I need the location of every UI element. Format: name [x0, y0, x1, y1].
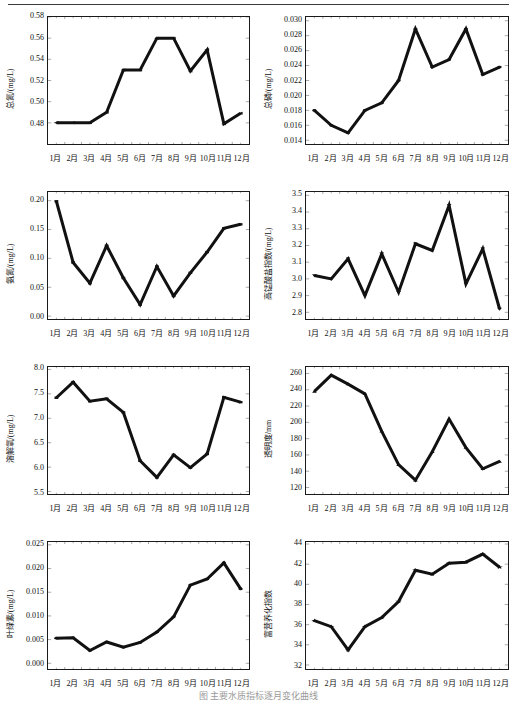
x-tick-label: 11月: [217, 505, 233, 513]
axes-frame-1: [305, 16, 509, 145]
y-tick-label: 3.3: [292, 224, 302, 232]
x-tick-label: 1月: [307, 505, 319, 513]
x-tick-label: 2月: [325, 680, 337, 688]
x-tick-label: 7月: [151, 680, 163, 688]
x-tick-label: 8月: [427, 155, 439, 163]
x-tick-label: 3月: [342, 155, 354, 163]
x-tick-label: 10月: [200, 505, 216, 513]
x-tick-label: 4月: [100, 505, 112, 513]
data-series-7: [306, 542, 508, 669]
x-tick-label: 8月: [168, 155, 180, 163]
chart-panel-chlorophyll: 叶绿素/(mg/L) 0.0000.0050.0100.0150.0200.02…: [0, 535, 258, 703]
x-tick-label: 11月: [476, 680, 492, 688]
x-tick-label: 1月: [307, 330, 319, 338]
x-tick-label: 7月: [151, 330, 163, 338]
data-series-0: [48, 17, 249, 144]
x-tick-group-6: 1月2月3月4月5月6月7月8月9月10月11月12月: [47, 674, 250, 690]
y-tick-label: 7.5: [34, 389, 44, 397]
y-tick-label: 0.030: [284, 16, 302, 24]
data-series-2: [48, 192, 249, 319]
axes-frame-5: [305, 366, 509, 495]
x-tick-label: 12月: [493, 505, 509, 513]
x-tick-label: 2月: [66, 505, 78, 513]
y-axis-label-1: 总磷/(mg/L): [262, 10, 276, 167]
x-tick-label: 5月: [117, 155, 129, 163]
y-tick-label: 34: [294, 641, 302, 649]
x-tick-label: 3月: [83, 155, 95, 163]
y-tick-label: 0.010: [26, 612, 44, 620]
header-rule: [8, 4, 509, 5]
y-tick-label: 0.014: [284, 137, 302, 145]
x-tick-label: 8月: [168, 505, 180, 513]
y-tick-label: 0.15: [30, 225, 44, 233]
y-tick-label: 240: [290, 385, 302, 393]
chart-panel-ammonia-nitrogen: 氨氮/(mg/L) 0.000.050.100.150.20 1月2月3月4月5…: [0, 185, 258, 360]
y-axis-label-6: 叶绿素/(mg/L): [4, 535, 18, 692]
chart-panel-total-phosphorus: 总磷/(mg/L) 0.0140.0160.0180.0200.0220.024…: [258, 10, 517, 185]
x-tick-label: 1月: [307, 680, 319, 688]
y-tick-label: 8.0: [34, 364, 44, 372]
y-axis-label-5: 透明度/mm: [262, 360, 276, 517]
y-axis-label-2: 氨氮/(mg/L): [4, 185, 18, 342]
x-tick-label: 7月: [410, 155, 422, 163]
y-tick-label: 140: [290, 468, 302, 476]
x-tick-label: 4月: [359, 155, 371, 163]
x-tick-label: 4月: [100, 680, 112, 688]
y-tick-group-1: 0.0140.0160.0180.0200.0220.0240.0260.028…: [276, 16, 304, 145]
y-tick-label: 0.50: [30, 98, 44, 106]
y-tick-label: 0.05: [30, 284, 44, 292]
y-tick-label: 7.0: [34, 414, 44, 422]
y-tick-label: 0.20: [30, 196, 44, 204]
plot-area-0: 0.480.500.520.540.560.58 1月2月3月4月5月6月7月8…: [18, 16, 252, 169]
y-tick-group-3: 2.82.93.03.13.23.33.43.5: [276, 191, 304, 320]
chart-cell-6: 叶绿素/(mg/L) 0.0000.0050.0100.0150.0200.02…: [0, 535, 258, 703]
x-tick-label: 11月: [217, 330, 233, 338]
x-tick-label: 4月: [359, 505, 371, 513]
y-tick-label: 0.005: [26, 636, 44, 644]
y-tick-label: 3.2: [292, 241, 302, 249]
x-tick-label: 12月: [234, 155, 250, 163]
y-tick-label: 0.020: [284, 92, 302, 100]
y-tick-label: 6.5: [34, 439, 44, 447]
y-tick-group-7: 32343638404244: [276, 541, 304, 670]
x-tick-label: 5月: [376, 505, 388, 513]
x-tick-label: 1月: [49, 505, 61, 513]
x-tick-label: 2月: [325, 505, 337, 513]
plot-area-5: 120140160180200220240260 1月2月3月4月5月6月7月8…: [276, 366, 511, 519]
y-tick-label: 200: [290, 418, 302, 426]
x-tick-label: 11月: [217, 155, 233, 163]
x-tick-label: 3月: [83, 330, 95, 338]
y-tick-label: 5.5: [34, 489, 44, 497]
x-tick-label: 1月: [307, 155, 319, 163]
axes-frame-2: [47, 191, 250, 320]
y-tick-label: 220: [290, 402, 302, 410]
x-tick-label: 3月: [342, 680, 354, 688]
x-tick-label: 10月: [458, 155, 474, 163]
x-tick-label: 5月: [117, 330, 129, 338]
x-tick-group-5: 1月2月3月4月5月6月7月8月9月10月11月12月: [305, 499, 509, 515]
x-tick-label: 6月: [393, 155, 405, 163]
y-tick-label: 3.0: [292, 275, 302, 283]
x-tick-label: 5月: [117, 505, 129, 513]
x-tick-label: 9月: [444, 155, 456, 163]
x-tick-group-4: 1月2月3月4月5月6月7月8月9月10月11月12月: [47, 499, 250, 515]
y-tick-label: 2.9: [292, 292, 302, 300]
x-tick-label: 2月: [325, 155, 337, 163]
x-tick-label: 6月: [134, 330, 146, 338]
data-series-1: [306, 17, 508, 144]
x-tick-label: 12月: [234, 330, 250, 338]
x-tick-label: 12月: [234, 505, 250, 513]
x-tick-group-1: 1月2月3月4月5月6月7月8月9月10月11月12月: [305, 149, 509, 165]
x-tick-label: 5月: [376, 155, 388, 163]
x-tick-label: 12月: [234, 680, 250, 688]
x-tick-label: 7月: [410, 680, 422, 688]
data-series-6: [48, 542, 249, 669]
y-tick-label: 0.48: [30, 120, 44, 128]
x-tick-label: 8月: [427, 505, 439, 513]
y-tick-label: 0.52: [30, 77, 44, 85]
x-tick-label: 10月: [458, 680, 474, 688]
y-tick-label: 0.018: [284, 107, 302, 115]
x-tick-label: 2月: [66, 330, 78, 338]
y-tick-label: 36: [294, 621, 302, 629]
plot-area-3: 2.82.93.03.13.23.33.43.5 1月2月3月4月5月6月7月8…: [276, 191, 511, 344]
